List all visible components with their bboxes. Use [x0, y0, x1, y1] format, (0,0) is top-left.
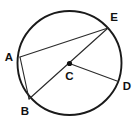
- segment-chord-AE: [20, 28, 108, 57]
- geometry-canvas: A B C D E: [0, 0, 136, 123]
- center-point-dot-c: [67, 61, 72, 66]
- vertex-label-a: A: [5, 51, 13, 63]
- circle-geometry-figure: A B C D E: [0, 0, 136, 123]
- vertex-label-e: E: [110, 11, 118, 23]
- vertex-label-b: B: [21, 105, 29, 117]
- vertex-label-d: D: [123, 80, 131, 92]
- vertex-label-c: C: [65, 70, 73, 82]
- segment-chord-AB: [20, 57, 29, 99]
- segment-radius-CD: [70, 64, 118, 82]
